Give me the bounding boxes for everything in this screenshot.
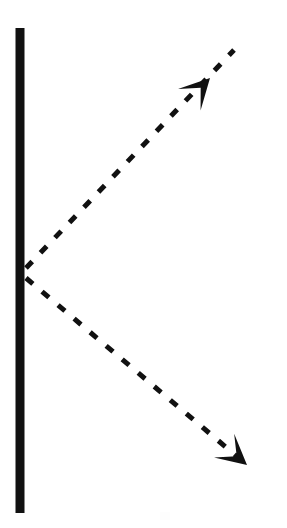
scan-smudge: [160, 512, 170, 520]
ray-diagram-canvas: [0, 0, 287, 528]
figure-background: [0, 0, 287, 528]
ray-diagram-figure: [0, 0, 287, 528]
